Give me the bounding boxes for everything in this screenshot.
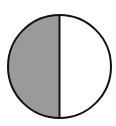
half-shaded-circle	[0, 0, 116, 126]
shaded-left-half	[8, 15, 60, 118]
fraction-diagram: 1/2	[0, 0, 116, 126]
unshaded-right-half	[60, 15, 111, 118]
